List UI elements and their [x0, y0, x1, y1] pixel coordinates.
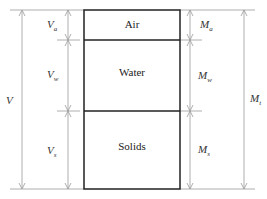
label-v-water: Vw [47, 68, 58, 83]
phase-solids: Solids [84, 140, 180, 152]
label-m-water: Mw [198, 69, 212, 84]
label-m-solids: Ms [198, 143, 210, 158]
phase-air: Air [84, 18, 180, 30]
label-m-air: Ma [200, 18, 213, 33]
label-m-total: Mt [250, 92, 261, 107]
label-v-total: V [6, 94, 13, 106]
phase-water: Water [84, 66, 180, 78]
label-v-solids: Vs [47, 144, 56, 159]
label-v-air: Va [47, 18, 57, 33]
